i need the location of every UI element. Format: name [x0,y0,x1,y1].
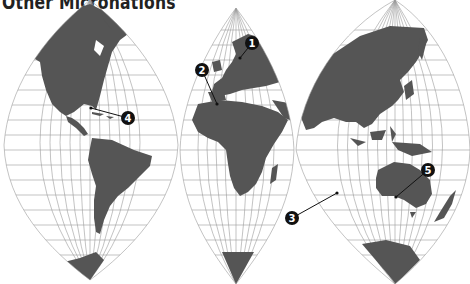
world-map: 1 2 3 4 5 [0,0,470,284]
lobe-asia-oceania [290,0,470,284]
lobe-europe-africa [170,8,300,284]
marker-5-number: 5 [425,165,432,176]
marker-3-number: 3 [289,213,296,224]
marker-4-number: 4 [125,113,132,124]
land-americas [22,4,152,280]
lobe-americas [0,0,190,280]
marker-1-number: 1 [249,38,256,49]
marker-2-number: 2 [199,65,206,76]
marker-4[interactable]: 4 [89,106,135,125]
